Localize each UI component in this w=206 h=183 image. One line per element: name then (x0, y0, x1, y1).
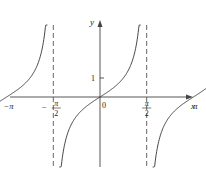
x-tick-label: π (193, 101, 198, 111)
y-axis-arrow-icon (98, 20, 103, 27)
x-tick-label-num: π (54, 99, 59, 108)
tangent-curves (0, 25, 206, 167)
tan-branch (153, 25, 206, 167)
x-tick-label-den: 2 (145, 109, 149, 118)
axes (10, 20, 193, 167)
axis-labels: xy01−3π2−π−π2π2π3π2 (0, 17, 206, 118)
x-axis-arrow-icon (186, 95, 193, 100)
asymptotes (0, 25, 206, 167)
x-tick-label-num: π (145, 99, 150, 108)
x-tick-label-sign: − (42, 102, 47, 112)
y-tick-label-1: 1 (91, 74, 95, 83)
x-tick-label: −π (4, 101, 15, 111)
origin-label: 0 (102, 101, 106, 110)
tan-branch (0, 25, 47, 167)
x-tick-label-den: 2 (54, 109, 58, 118)
tangent-graph: xy01−3π2−π−π2π2π3π2 (0, 0, 206, 183)
y-axis-label: y (89, 17, 94, 27)
